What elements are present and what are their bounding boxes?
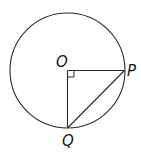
label-p: P [127,62,137,80]
chord-pq [68,71,125,129]
circle-diagram: O P Q [0,0,141,158]
label-o: O [56,53,68,71]
right-angle-marker [68,71,75,78]
label-q: Q [62,132,74,150]
